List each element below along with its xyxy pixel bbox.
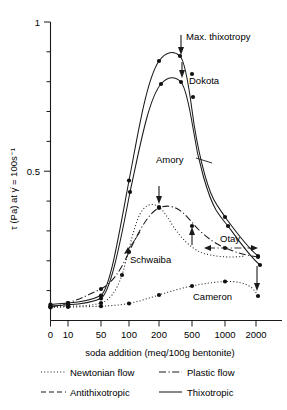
series-dokota [48, 53, 260, 307]
legend-label-thixotropic: Thixotropic [187, 387, 234, 398]
amory-leader [196, 158, 212, 163]
y-axis-title: τ (Pa) at γ̇ = 100s⁻¹ [8, 148, 19, 230]
legend-label-antithixotropic: Antithixotropic [70, 387, 130, 398]
x-tick-label-200: 200 [151, 329, 167, 340]
label-amory: Amory [156, 154, 184, 165]
max-thixotropy-arrow [178, 35, 184, 55]
series-dokota-line [51, 53, 259, 305]
series-dokota-markers [48, 54, 260, 307]
y-axis-ticks [44, 22, 51, 291]
y-tick-label-0-5: 0.5 [27, 166, 40, 177]
schwaiba-peak-arrow [156, 186, 162, 204]
y-tick-label-1: 1 [35, 17, 40, 28]
x-tick-label-10: 10 [63, 329, 74, 340]
x-axis-ticks [51, 321, 257, 327]
label-cameron: Cameron [193, 291, 232, 302]
x-tick-label-2000: 2000 [245, 329, 266, 340]
x-axis-title: soda addition (meq/100g bentonite) [85, 347, 234, 358]
label-schwaiba: Schwaiba [130, 254, 172, 265]
series-amory-markers [48, 80, 262, 308]
x-tick-label-0: 0 [48, 329, 53, 340]
otay-mid-arrow [189, 227, 195, 245]
x-tick-label-1000: 1000 [214, 329, 235, 340]
legend: Newtonian flow Plastic flow Antithixotro… [41, 367, 235, 398]
x-tick-label-50: 50 [96, 329, 107, 340]
x-tick-label-500: 500 [184, 329, 200, 340]
legend-label-plastic: Plastic flow [187, 367, 235, 378]
chart-figure: 1 0.5 τ (Pa) at γ̇ = 100s⁻¹ 0 10 50 100 … [0, 0, 287, 410]
label-otay: Otay [220, 233, 240, 244]
cameron-right-arrow [254, 266, 260, 291]
label-dokota: Dokota [189, 75, 220, 86]
series-amory [48, 78, 262, 308]
legend-label-newtonian: Newtonian flow [70, 367, 135, 378]
x-axis-tick-labels: 0 10 50 100 200 500 1000 2000 [48, 329, 267, 340]
label-max-thixotropy: Max. thixotropy [186, 31, 251, 42]
chart-svg: 1 0.5 τ (Pa) at γ̇ = 100s⁻¹ 0 10 50 100 … [0, 0, 287, 410]
schwaiba-leader [124, 232, 140, 254]
axis-lines [51, 22, 283, 321]
x-tick-label-100: 100 [121, 329, 137, 340]
series-amory-line [51, 78, 261, 306]
